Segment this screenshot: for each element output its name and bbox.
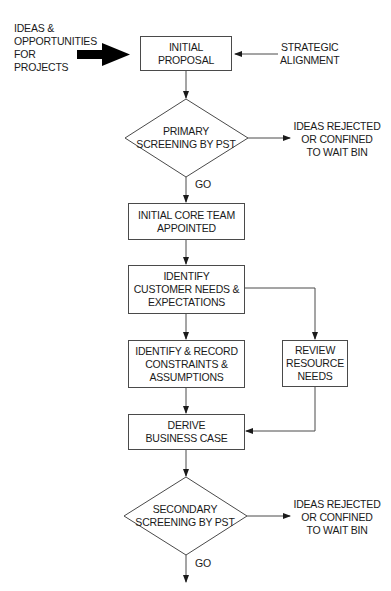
secondary-screening-label: SECONDARY SCREENING BY PST — [129, 503, 241, 529]
initial-core-team-box: INITIAL CORE TEAM APPOINTED — [128, 203, 245, 240]
derive-business-case-box: DERIVE BUSINESS CASE — [128, 414, 245, 450]
primary-screening-label: PRIMARY SCREENING BY PST — [130, 125, 242, 151]
rejected-label-secondary: IDEAS REJECTED OR CONFINED TO WAIT BIN — [292, 498, 382, 537]
rejected-label-primary: IDEAS REJECTED OR CONFINED TO WAIT BIN — [292, 120, 382, 159]
constraints-assumptions-box: IDENTIFY & RECORD CONSTRAINTS & ASSUMPTI… — [128, 340, 245, 388]
ideas-opportunities-label: IDEAS & OPPORTUNITIES FOR PROJECTS — [14, 22, 97, 74]
strategic-alignment-label: STRATEGIC ALIGNMENT — [280, 41, 339, 67]
review-resource-needs-box: REVIEW RESOURCE NEEDS — [282, 340, 348, 387]
customer-needs-box: IDENTIFY CUSTOMER NEEDS & EXPECTATIONS — [128, 265, 245, 314]
initial-proposal-box: INITIAL PROPOSAL — [140, 36, 232, 71]
go-label-primary: GO — [195, 178, 211, 191]
go-label-secondary: GO — [195, 557, 211, 570]
